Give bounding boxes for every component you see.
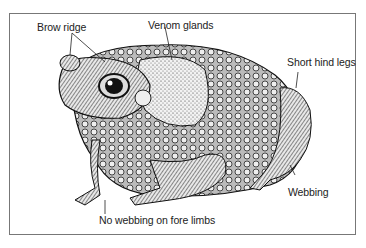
label-no-webbing-fore-limbs: No webbing on fore limbs: [99, 214, 215, 226]
label-venom-glands: Venom glands: [148, 19, 213, 31]
label-webbing: Webbing: [288, 186, 329, 198]
toad-illustration: [0, 0, 366, 248]
label-brow-ridge: Brow ridge: [37, 21, 86, 33]
label-short-hind-legs: Short hind legs: [287, 56, 356, 68]
